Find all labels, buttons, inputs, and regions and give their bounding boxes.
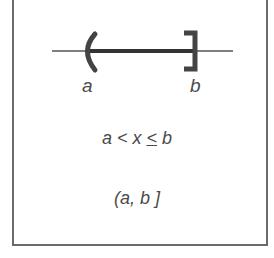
ineq-le: < — [147, 128, 158, 148]
interval-notation: (a, b ] — [0, 189, 274, 207]
ineq-a: a — [102, 128, 112, 148]
ineq-b: b — [162, 128, 172, 148]
ineq-lt: < — [112, 128, 133, 148]
inequality: a < x < b — [0, 129, 274, 147]
label-b: b — [190, 76, 201, 95]
label-a: a — [82, 76, 93, 95]
